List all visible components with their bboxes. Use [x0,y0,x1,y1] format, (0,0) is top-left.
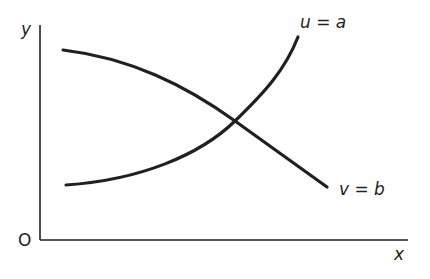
origin-label: O [18,232,31,249]
v-curve [63,50,327,187]
u-curve [66,37,298,185]
x-axis-label: x [394,246,404,263]
diagram-figure: y O x u = a v = b [0,0,430,279]
plot-canvas [0,0,430,279]
u-curve-label: u = a [300,14,346,31]
v-curve-label: v = b [339,181,385,198]
y-axis-label: y [21,21,31,38]
